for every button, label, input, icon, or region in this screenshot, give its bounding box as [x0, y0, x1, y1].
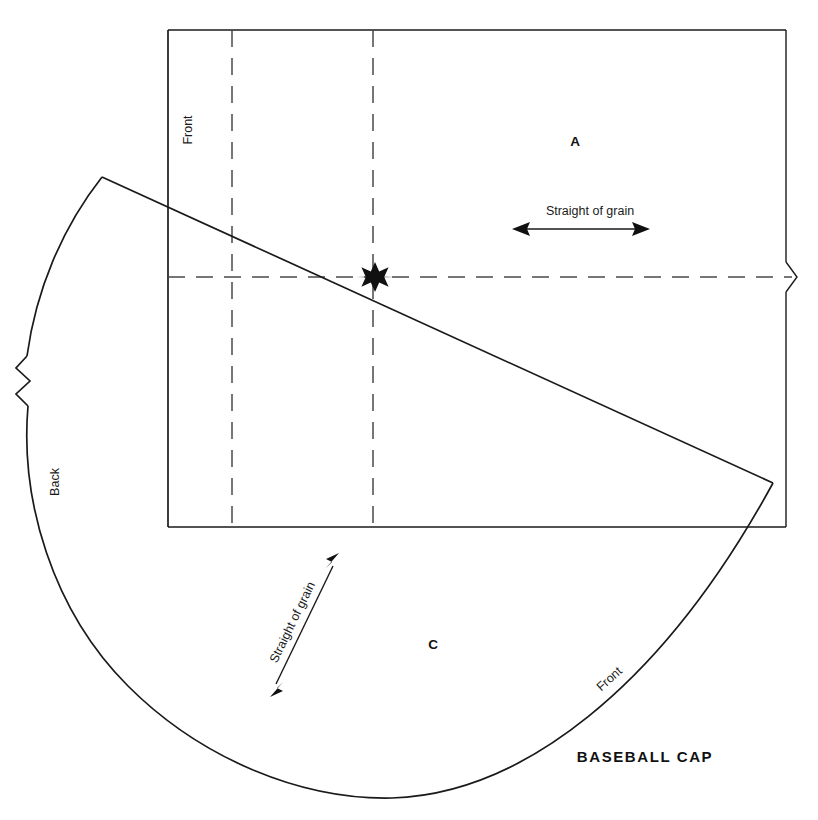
- center-star-marker: [356, 262, 394, 292]
- grain-arrow-horizontal-label: Straight of grain: [546, 204, 634, 218]
- pattern-diagram-canvas: Straight of grain Straight of grain A C …: [0, 0, 818, 820]
- pattern-drawing: Straight of grain Straight of grain A C …: [0, 0, 818, 820]
- grain-arrow-diagonal-head-bottom: [270, 682, 283, 697]
- diagram-title: BASEBALL CAP: [577, 748, 713, 765]
- edge-label-front-rectangle: Front: [181, 115, 195, 145]
- grain-arrow-diagonal: Straight of grain: [267, 553, 339, 697]
- piece-label-c: C: [428, 637, 438, 652]
- wedge-arc-lower: [27, 406, 773, 798]
- break-mark-left-icon: [16, 356, 30, 406]
- grain-arrow-diagonal-head-top: [326, 553, 339, 568]
- grain-arrow-diagonal-label: Straight of grain: [267, 579, 318, 664]
- wedge-top-straight-edge: [102, 177, 773, 483]
- wedge-arc-upper: [27, 177, 102, 356]
- piece-label-a: A: [570, 134, 580, 149]
- grain-arrow-horizontal: Straight of grain: [512, 204, 650, 236]
- edge-label-back-wedge: Back: [48, 467, 62, 496]
